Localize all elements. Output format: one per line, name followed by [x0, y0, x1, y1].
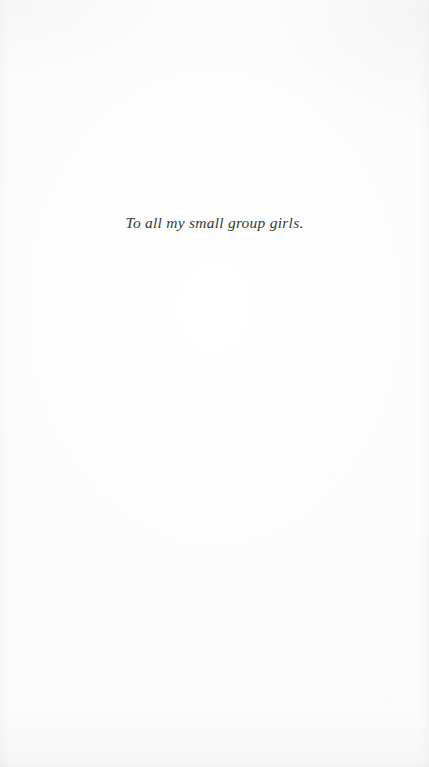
page-edge-shadow-right	[420, 0, 429, 767]
page-edge-shadow-left	[0, 0, 9, 767]
paper-grain-texture	[0, 0, 429, 767]
dedication-text: To all my small group girls.	[125, 212, 303, 234]
book-page: To all my small group girls.	[0, 0, 429, 767]
scan-vignette	[0, 0, 429, 767]
dedication-block: To all my small group girls.	[0, 212, 429, 234]
